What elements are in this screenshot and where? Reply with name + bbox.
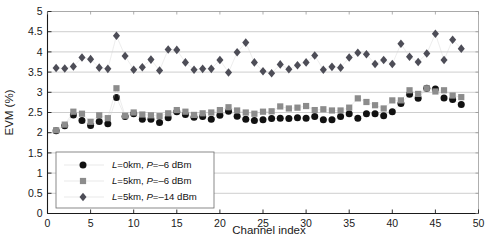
data-point [320, 116, 327, 123]
data-point [363, 99, 369, 105]
data-point [450, 92, 456, 98]
legend-label: L=0km, P=–6 dBm [112, 159, 191, 170]
tick-label-x: 45 [430, 217, 442, 229]
data-point [234, 113, 241, 120]
data-point [208, 116, 215, 123]
data-point [78, 117, 85, 124]
data-point [139, 111, 145, 117]
data-point [217, 107, 223, 113]
data-point [243, 109, 249, 115]
data-point [277, 115, 284, 122]
data-point [122, 113, 128, 119]
tick-label-y: 4 [37, 46, 43, 58]
data-point [156, 113, 162, 119]
data-point [441, 87, 447, 93]
data-point [294, 114, 301, 121]
data-point [372, 110, 379, 117]
data-point [346, 110, 353, 117]
data-point [372, 102, 378, 108]
tick-label-y: 0 [37, 207, 43, 219]
data-point [329, 107, 335, 113]
data-point [105, 115, 111, 121]
data-point [363, 110, 370, 117]
data-point [320, 106, 326, 112]
data-point [251, 117, 258, 124]
tick-label-x: 35 [343, 217, 355, 229]
tick-label-x: 40 [386, 217, 398, 229]
tick-label-x: 10 [128, 217, 140, 229]
data-point [285, 115, 292, 122]
data-point [354, 115, 361, 122]
data-point [260, 109, 266, 115]
data-point [286, 105, 292, 111]
data-point [432, 88, 438, 94]
legend-label: L=5km, P=–14 dBm [112, 191, 197, 202]
data-point [346, 105, 352, 111]
data-point [441, 94, 448, 101]
tick-label-y: 1 [37, 167, 43, 179]
data-point [251, 111, 257, 117]
data-point [225, 104, 231, 110]
data-point [269, 108, 275, 114]
data-point [398, 97, 404, 103]
data-point [131, 109, 137, 115]
legend-marker-square [80, 178, 86, 184]
data-point [242, 116, 249, 123]
data-point [328, 116, 335, 123]
data-point [165, 110, 171, 116]
data-point [53, 127, 59, 133]
tick-label-x: 5 [88, 217, 94, 229]
data-point [208, 109, 214, 115]
legend: L=0km, P=–6 dBmL=5km, P=–6 dBmL=5km, P=–… [56, 152, 214, 208]
data-point [191, 112, 197, 118]
data-point [96, 112, 102, 118]
data-point [337, 107, 343, 113]
legend-marker-circle [80, 162, 87, 169]
data-point [182, 109, 188, 115]
tick-label-x: 20 [214, 217, 226, 229]
chart-svg: 00.511.522.533.544.550510152025303540455… [0, 0, 491, 240]
data-point [389, 97, 395, 103]
data-point [355, 95, 361, 101]
data-point [381, 105, 387, 111]
tick-label-y: 5 [37, 5, 43, 17]
data-point [312, 107, 318, 113]
data-point [148, 112, 154, 118]
tick-label-y: 2.5 [28, 106, 43, 118]
data-point [277, 103, 283, 109]
data-point [70, 109, 76, 115]
data-point [380, 112, 387, 119]
tick-label-x: 0 [45, 217, 51, 229]
data-point [200, 110, 206, 116]
plot-area: 00.511.522.533.544.550510152025303540455… [0, 0, 491, 240]
y-axis-label: EVM (%) [3, 89, 15, 135]
tick-label-y: 3 [37, 86, 43, 98]
tick-label-y: 3.5 [28, 66, 43, 78]
data-point [156, 119, 163, 126]
tick-label-x: 15 [171, 217, 183, 229]
data-point [174, 107, 180, 113]
chart-figure: 00.511.522.533.544.550510152025303540455… [0, 0, 491, 240]
data-point [406, 87, 412, 93]
tick-label-y: 4.5 [28, 25, 43, 37]
data-point [458, 101, 465, 108]
tick-label-y: 1.5 [28, 147, 43, 159]
data-point [104, 120, 111, 127]
tick-label-y: 0.5 [28, 187, 43, 199]
data-point [294, 105, 300, 111]
data-point [88, 119, 94, 125]
data-point [268, 115, 275, 122]
data-point [303, 103, 309, 109]
data-point [234, 107, 240, 113]
data-point [424, 85, 430, 91]
legend-label: L=5km, P=–6 dBm [112, 175, 191, 186]
data-point [458, 94, 464, 100]
data-point [415, 91, 421, 97]
data-point [62, 122, 68, 128]
data-point [113, 85, 119, 91]
data-point [311, 113, 318, 120]
data-point [303, 115, 310, 122]
data-point [79, 111, 85, 117]
x-axis-label: Channel index [232, 224, 306, 236]
data-point [389, 108, 396, 115]
